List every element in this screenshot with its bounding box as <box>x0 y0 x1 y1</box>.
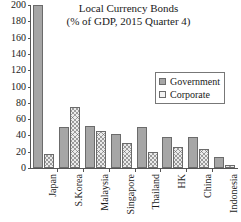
y-axis-tick-label: 100 <box>0 82 26 92</box>
bar-corporate <box>44 154 54 168</box>
x-axis-tick-label: China <box>203 174 213 198</box>
bar-corporate <box>122 143 132 168</box>
y-axis-tick-mark <box>28 70 31 71</box>
bar-corporate <box>148 152 158 168</box>
y-axis: 200180160140120100806040200 <box>0 0 26 175</box>
x-axis-tick-label: S.Korea <box>74 174 84 207</box>
x-axis-tick-mark <box>57 168 58 172</box>
y-axis-tick-mark <box>28 38 31 39</box>
x-axis-tick-mark <box>186 168 187 172</box>
bar-government <box>137 127 147 168</box>
legend-label-corporate: Corporate <box>170 90 210 100</box>
bar-government <box>162 137 172 168</box>
y-axis-tick-label: 20 <box>0 147 26 157</box>
x-axis-tick-mark <box>212 168 213 172</box>
y-axis-tick-mark <box>28 168 31 169</box>
bar-government <box>85 126 95 168</box>
y-axis-tick-label: 40 <box>0 130 26 140</box>
legend-label-government: Government <box>170 77 220 87</box>
bar-group <box>109 5 135 168</box>
x-axis-tick-label: Indonesia <box>229 174 239 213</box>
bar-corporate <box>70 107 80 168</box>
y-axis-tick-label: 180 <box>0 16 26 26</box>
x-axis-tick-label: Malaysia <box>100 174 110 211</box>
x-axis-tick-mark <box>160 168 161 172</box>
bar-government <box>188 137 198 168</box>
y-axis-tick-label: 120 <box>0 65 26 75</box>
bar-corporate <box>173 147 183 168</box>
legend: Government Corporate <box>155 72 225 104</box>
bar-chart: Local Currency Bonds (% of GDP, 2015 Qua… <box>0 0 241 222</box>
legend-item-government: Government <box>159 75 220 88</box>
y-axis-tick-label: 200 <box>0 0 26 10</box>
bar-group <box>83 5 109 168</box>
y-axis-tick-label: 0 <box>0 163 26 173</box>
x-axis-tick-label: Japan <box>48 174 58 197</box>
bar-corporate <box>225 165 235 168</box>
bar-government <box>111 134 121 168</box>
y-axis-tick-mark <box>28 54 31 55</box>
bar-government <box>33 5 43 168</box>
legend-swatch-government-icon <box>159 78 166 85</box>
x-axis-tick-mark <box>83 168 84 172</box>
y-axis-tick-label: 60 <box>0 114 26 124</box>
x-axis-tick-label: HK <box>177 174 187 188</box>
bar-government <box>214 157 224 168</box>
y-axis-tick-mark <box>28 135 31 136</box>
x-axis-tick-label: Thailand <box>151 174 161 210</box>
y-axis-tick-mark <box>28 152 31 153</box>
y-axis-tick-mark <box>28 5 31 6</box>
y-axis-tick-mark <box>28 21 31 22</box>
y-axis-tick-mark <box>28 87 31 88</box>
y-axis-tick-mark <box>28 103 31 104</box>
y-axis-tick-label: 140 <box>0 49 26 59</box>
x-axis-tick-label: Singapore <box>126 174 136 215</box>
x-axis-tick-mark <box>135 168 136 172</box>
bar-corporate <box>199 149 209 168</box>
x-axis-tick-mark <box>109 168 110 172</box>
bar-group <box>31 5 57 168</box>
y-axis-tick-label: 80 <box>0 98 26 108</box>
legend-swatch-corporate-icon <box>159 91 166 98</box>
bar-government <box>59 127 69 168</box>
bar-group <box>57 5 83 168</box>
y-axis-tick-mark <box>28 119 31 120</box>
bar-corporate <box>96 131 106 168</box>
y-axis-tick-label: 160 <box>0 33 26 43</box>
legend-item-corporate: Corporate <box>159 88 220 101</box>
